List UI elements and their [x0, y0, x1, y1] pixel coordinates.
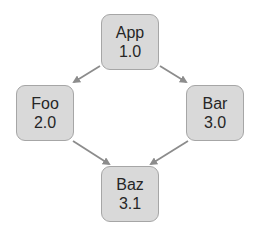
node-version: 1.0: [119, 42, 141, 61]
node-version: 2.0: [34, 113, 56, 132]
edge-bar-baz: [151, 141, 188, 164]
node-name: App: [116, 23, 144, 42]
node-app: App 1.0: [101, 14, 159, 70]
edge-app-bar: [160, 66, 186, 82]
edge-app-foo: [74, 66, 100, 82]
node-baz: Baz 3.1: [101, 166, 159, 222]
node-name: Foo: [31, 94, 59, 113]
edge-foo-baz: [73, 141, 109, 164]
node-name: Bar: [203, 94, 228, 113]
node-name: Baz: [116, 175, 144, 194]
node-bar: Bar 3.0: [186, 85, 244, 141]
node-version: 3.0: [204, 113, 226, 132]
node-version: 3.1: [119, 194, 141, 213]
node-foo: Foo 2.0: [16, 85, 74, 141]
